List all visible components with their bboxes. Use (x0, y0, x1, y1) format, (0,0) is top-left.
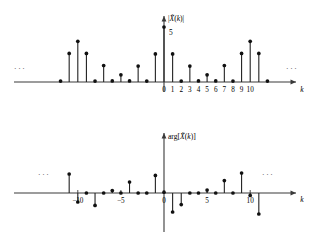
stem-dot (154, 52, 158, 56)
stem (136, 191, 140, 195)
stem (197, 191, 201, 195)
stem-dot (248, 39, 252, 43)
stem-dot (197, 79, 201, 83)
stem-dot (136, 191, 140, 195)
x-axis-tick-label: −10 (72, 197, 84, 205)
stem-dot (102, 64, 106, 68)
stem-dot (154, 174, 158, 178)
stem-dot (240, 171, 244, 175)
stem (119, 73, 123, 82)
stem-dot (171, 52, 175, 56)
stem (119, 191, 123, 195)
x-axis-tick-label: 7 (223, 86, 227, 94)
stem (102, 64, 106, 82)
stem-dot (179, 79, 183, 83)
stem (136, 64, 140, 82)
stem-dot (119, 191, 123, 195)
stem-dot (214, 191, 218, 195)
stem (222, 64, 226, 82)
stem (188, 191, 192, 195)
left-ellipsis: ··· (38, 169, 51, 179)
x-axis-tick-label: 4 (197, 86, 201, 94)
stem-dot (85, 52, 89, 56)
stem (179, 79, 183, 83)
y-axis-arrow-icon (162, 133, 167, 138)
stem-dot (145, 191, 149, 195)
stem (240, 171, 244, 193)
left-ellipsis: ··· (14, 63, 27, 73)
stem-dot (179, 203, 183, 207)
stem (102, 191, 106, 195)
stem (222, 179, 226, 193)
stem (154, 52, 158, 82)
stem-dot (257, 212, 261, 216)
x-axis-tick-label: 6 (214, 86, 218, 94)
stem (188, 64, 192, 82)
stem (266, 79, 270, 83)
stem (76, 39, 80, 82)
x-axis-arrow-icon (291, 190, 297, 195)
stem (93, 79, 97, 83)
stem-dot (231, 79, 235, 83)
x-axis-tick-label: 1 (171, 86, 175, 94)
x-axis-tick-label: 0 (162, 197, 166, 205)
stem-dot (145, 79, 149, 83)
stem-dot (266, 79, 270, 83)
y-axis-label: |X̃(k)| (168, 14, 184, 23)
stem-dot (67, 52, 71, 56)
stem-dot (171, 210, 175, 214)
stem (231, 191, 235, 195)
stem (145, 191, 149, 195)
stem-dot (205, 73, 209, 77)
stem-dot (85, 191, 89, 195)
right-ellipsis: ··· (262, 169, 275, 179)
y-axis-arrow-icon (162, 16, 167, 21)
stem (128, 180, 132, 193)
stem (67, 172, 71, 193)
stem-dot (240, 52, 244, 56)
stem (257, 52, 261, 82)
stem (205, 73, 209, 82)
x-axis-name-label: k (300, 85, 304, 94)
x-axis-tick-label: 0 (162, 86, 166, 94)
stem-dot (128, 180, 132, 184)
x-axis-name-label: k (300, 195, 304, 204)
stem-dot (136, 64, 140, 68)
x-axis-arrow-icon (291, 79, 297, 84)
phase-stem-plot: −10−50510arg[X̃(k)]k······ (14, 132, 304, 232)
stem (205, 188, 209, 193)
stem-dot (205, 188, 209, 192)
magnitude-stem-plot: 012345678910|X̃(k)|k······5 (14, 14, 305, 94)
stem (110, 189, 114, 193)
stem (257, 193, 261, 216)
stem-dot (128, 79, 132, 83)
x-axis-tick-label: −5 (117, 197, 125, 205)
stem-dot (222, 179, 226, 183)
x-axis-tick-label: 10 (247, 197, 255, 205)
stem-dot (119, 73, 123, 77)
stem-dot (76, 39, 80, 43)
stem-dot (231, 191, 235, 195)
stem (248, 39, 252, 82)
stem (231, 79, 235, 83)
stem (240, 52, 244, 82)
stem (197, 79, 201, 83)
stem (110, 79, 114, 83)
stem-dot (59, 79, 63, 83)
stem-dot (102, 191, 106, 195)
stem (67, 52, 71, 82)
stem (85, 52, 89, 82)
stem-dot (162, 190, 166, 194)
stem (85, 191, 89, 195)
right-ellipsis: ··· (286, 63, 299, 73)
x-axis-tick-label: 8 (231, 86, 235, 94)
stem (171, 193, 175, 214)
stem-dot (222, 64, 226, 68)
stem-dot (197, 191, 201, 195)
x-axis-tick-label: 5 (205, 197, 209, 205)
stem-dot (93, 79, 97, 83)
stem-dot (110, 189, 114, 193)
stem-dot (110, 79, 114, 83)
stem-dot (214, 79, 218, 83)
peak-value-label: 5 (169, 28, 173, 37)
